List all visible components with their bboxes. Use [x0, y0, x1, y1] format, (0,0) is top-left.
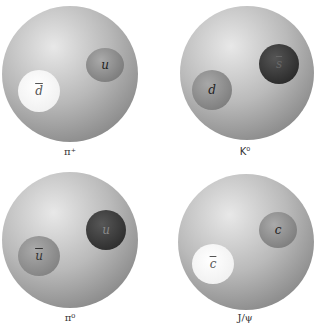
quark-anti-u: u: [18, 236, 60, 276]
quark-u: u: [86, 210, 126, 250]
meson-label: K⁰: [215, 146, 275, 157]
quark-c: c: [259, 212, 297, 248]
quark-u: u: [86, 48, 124, 82]
quark-d: d: [192, 70, 232, 110]
quark-anti-s: s: [259, 44, 299, 84]
meson-label: π⁺: [40, 146, 100, 157]
meson-sphere: [178, 174, 314, 310]
meson-label: π⁰: [40, 312, 100, 323]
meson-label: J/ψ: [215, 312, 275, 323]
quark-anti-d: d: [18, 70, 60, 112]
quark-anti-c: c: [192, 244, 234, 284]
